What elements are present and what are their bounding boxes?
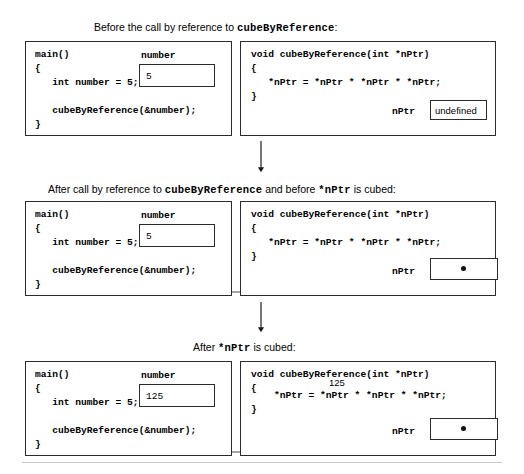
caption-code: *nPtr xyxy=(218,342,251,354)
caption-code-2: *nPtr xyxy=(318,184,351,196)
pointer-call-by-reference-diagram: Before the call by reference to cubeByRe… xyxy=(0,0,524,474)
main-function-box: main() { int number = 5; cubeByReference… xyxy=(25,361,232,456)
caption-code: cubeByReference xyxy=(165,184,263,196)
cubed-result-annotation: 125 xyxy=(329,377,345,388)
nptr-value-cell xyxy=(430,418,498,440)
nptr-variable-label: nPtr xyxy=(392,426,415,438)
number-value-cell: 5 xyxy=(139,64,215,87)
number-value: 5 xyxy=(146,70,152,81)
caption-middle: and before xyxy=(262,183,318,195)
caption-prefix: After call by reference to xyxy=(48,183,165,195)
footer-rule xyxy=(22,462,502,463)
panel-3-caption: After *nPtr is cubed: xyxy=(193,341,296,354)
cubebyreference-close-brace: } xyxy=(251,403,257,417)
caption-code: cubeByReference xyxy=(237,22,335,34)
nptr-value: undefined xyxy=(435,105,477,116)
caption-suffix: is cubed: xyxy=(251,341,296,353)
nptr-variable-label: nPtr xyxy=(392,106,415,118)
caption-suffix: is cubed: xyxy=(351,183,396,195)
caption-prefix: Before the call by reference to xyxy=(94,21,237,33)
panel-1-caption: Before the call by reference to cubeByRe… xyxy=(94,21,337,34)
number-variable-label: number xyxy=(141,50,176,62)
nptr-variable-label: nPtr xyxy=(392,266,415,278)
cubebyreference-function-box: void cubeByReference(int *nPtr) { 125 *n… xyxy=(240,361,496,456)
caption-prefix: After xyxy=(193,341,218,353)
pointer-dot-icon xyxy=(461,266,466,271)
cubebyreference-code: void cubeByReference(int *nPtr) { *nPtr … xyxy=(251,48,441,104)
cubebyreference-function-box: void cubeByReference(int *nPtr) { *nPtr … xyxy=(240,41,496,136)
number-variable-label: number xyxy=(141,370,176,382)
number-value: 125 xyxy=(146,390,163,401)
number-value-cell: 125 xyxy=(139,384,215,407)
cubebyreference-code: void cubeByReference(int *nPtr) { *nPtr … xyxy=(251,208,441,264)
number-value-cell: 5 xyxy=(139,224,215,247)
caption-suffix: : xyxy=(335,21,338,33)
nptr-value-cell xyxy=(430,258,498,280)
main-function-box: main() { int number = 5; cubeByReference… xyxy=(25,41,232,136)
cubebyreference-assignment: *nPtr = *nPtr * *nPtr * *nPtr; xyxy=(274,389,447,403)
number-value: 5 xyxy=(146,230,152,241)
pointer-dot-icon xyxy=(461,426,466,431)
cubebyreference-function-box: void cubeByReference(int *nPtr) { *nPtr … xyxy=(240,201,496,296)
panel-2-caption: After call by reference to cubeByReferen… xyxy=(48,183,396,196)
cubebyreference-open-brace: { xyxy=(251,382,257,396)
number-variable-label: number xyxy=(141,210,176,222)
main-function-box: main() { int number = 5; cubeByReference… xyxy=(25,201,232,296)
nptr-value-cell: undefined xyxy=(430,100,487,120)
